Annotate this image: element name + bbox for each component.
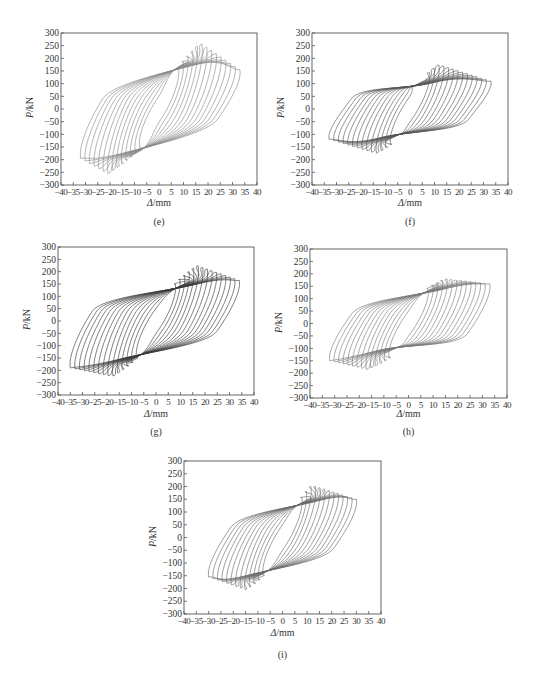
x-tick-label: 0 xyxy=(280,616,285,626)
y-tick-label: 100 xyxy=(168,507,183,517)
y-tick-label: 250 xyxy=(168,469,183,479)
y-axis-unit: /kN xyxy=(147,525,158,540)
y-axis-label: P/kN xyxy=(147,516,158,556)
panel-caption: (i) xyxy=(263,649,303,660)
hysteresis-loop xyxy=(240,489,325,588)
x-tick-label: −5 xyxy=(266,616,276,626)
x-tick-label: 10 xyxy=(303,616,312,626)
y-tick-label: 50 xyxy=(173,520,183,530)
y-tick-label: −150 xyxy=(162,571,182,581)
y-tick-label: 300 xyxy=(168,456,183,466)
x-axis-label: Δ/mm xyxy=(253,627,313,638)
y-tick-label: 0 xyxy=(177,533,182,543)
hysteresis-loops xyxy=(208,486,356,589)
y-tick-label: 200 xyxy=(168,482,183,492)
x-tick-label: 35 xyxy=(365,616,374,626)
y-tick-label: 150 xyxy=(168,494,183,504)
x-axis-unit: /mm xyxy=(276,627,294,638)
x-tick-label: 20 xyxy=(328,616,337,626)
x-tick-label: 5 xyxy=(293,616,298,626)
y-tick-label: −100 xyxy=(162,558,182,568)
x-tick-label: 15 xyxy=(315,616,324,626)
y-tick-label: −50 xyxy=(167,545,182,555)
hysteresis-loop xyxy=(236,491,330,587)
x-tick-label: 30 xyxy=(352,616,361,626)
y-axis-symbol: P xyxy=(147,540,158,546)
y-tick-label: −200 xyxy=(162,584,182,594)
x-tick-label: −10 xyxy=(251,616,265,626)
axes-frame xyxy=(184,461,381,614)
x-tick-label: 40 xyxy=(377,616,386,626)
hysteresis-loop xyxy=(227,493,339,583)
y-tick-label: −250 xyxy=(162,596,182,606)
x-tick-label: 25 xyxy=(340,616,349,626)
plot-area-i: 300250200150100500−50−100−150−200−250−30… xyxy=(0,0,537,678)
hysteresis-loop xyxy=(222,495,343,582)
